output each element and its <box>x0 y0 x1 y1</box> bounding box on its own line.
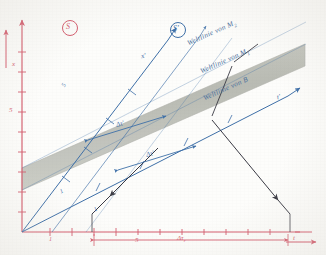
spacetime-diagram-figure: S S' x 5 t 1 5 x' t' 5 1 1 Weltlinie von… <box>0 0 326 255</box>
interval-delta-tau-r <box>94 234 288 246</box>
axis-x-unprimed <box>6 20 26 232</box>
frame-badge-S <box>63 21 78 36</box>
frame-badge-S-prime <box>171 23 186 38</box>
diagram-canvas <box>0 0 326 255</box>
